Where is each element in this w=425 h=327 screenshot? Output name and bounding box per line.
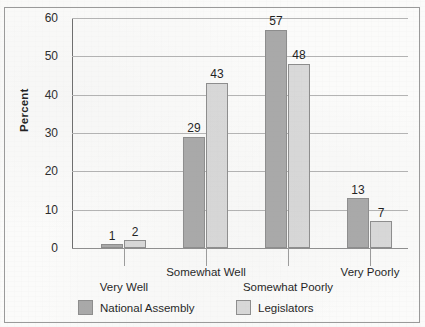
gridline-20 xyxy=(72,171,408,172)
category-label-somewhat-poorly: Somewhat Poorly xyxy=(243,281,333,293)
gridline-50 xyxy=(72,56,408,57)
value-label-national-assembly-somewhat-well: 29 xyxy=(187,122,200,134)
bar-national-assembly-somewhat-well[interactable] xyxy=(183,137,205,248)
value-label-legislators-somewhat-well: 43 xyxy=(210,68,223,80)
x-axis-baseline xyxy=(72,248,408,249)
gridline-40 xyxy=(72,95,408,96)
category-label-very-well: Very Well xyxy=(100,281,148,293)
legend-label-legislators: Legislators xyxy=(258,302,314,314)
bar-legislators-very-poorly[interactable] xyxy=(370,221,392,248)
y-axis-tick-labels: 60 50 40 30 20 10 0 xyxy=(0,0,68,327)
bar-national-assembly-very-well[interactable] xyxy=(101,244,123,248)
bar-national-assembly-very-poorly[interactable] xyxy=(347,198,369,248)
y-tick-label-40: 40 xyxy=(45,89,58,101)
bar-legislators-somewhat-well[interactable] xyxy=(206,83,228,248)
category-tick-very-well xyxy=(124,248,125,266)
legend-swatch-legislators xyxy=(236,300,251,315)
legend-item-national-assembly[interactable]: National Assembly xyxy=(78,300,195,315)
y-tick-label-30: 30 xyxy=(45,127,58,139)
legend-label-national-assembly: National Assembly xyxy=(100,302,195,314)
chart-legend: National Assembly Legislators xyxy=(0,298,425,322)
y-tick-label-20: 20 xyxy=(45,165,58,177)
value-label-legislators-somewhat-poorly: 48 xyxy=(292,49,305,61)
gridline-60 xyxy=(72,18,408,19)
y-tick-label-10: 10 xyxy=(45,204,58,216)
bar-national-assembly-somewhat-poorly[interactable] xyxy=(265,30,287,249)
value-label-national-assembly-somewhat-poorly: 57 xyxy=(269,15,282,27)
value-label-legislators-very-poorly: 7 xyxy=(378,207,385,219)
legend-item-legislators[interactable]: Legislators xyxy=(236,300,314,315)
value-label-national-assembly-very-poorly: 13 xyxy=(351,184,364,196)
bar-legislators-very-well[interactable] xyxy=(124,240,146,248)
value-label-national-assembly-very-well: 1 xyxy=(109,230,116,242)
bar-legislators-somewhat-poorly[interactable] xyxy=(288,64,310,248)
legend-swatch-national-assembly xyxy=(78,300,93,315)
plot-area xyxy=(72,18,408,248)
value-label-legislators-very-well: 2 xyxy=(132,226,139,238)
category-label-very-poorly: Very Poorly xyxy=(341,266,400,278)
y-tick-label-0: 0 xyxy=(51,242,58,254)
category-tick-somewhat-well xyxy=(206,248,207,266)
category-label-somewhat-well: Somewhat Well xyxy=(166,266,246,278)
bar-chart-figure: Percent 60 50 40 30 20 10 0 1 2 29 xyxy=(0,0,425,327)
category-tick-somewhat-poorly xyxy=(288,248,289,266)
category-tick-very-poorly xyxy=(370,248,371,266)
gridline-30 xyxy=(72,133,408,134)
y-tick-label-50: 50 xyxy=(45,50,58,62)
y-tick-label-60: 60 xyxy=(45,12,58,24)
